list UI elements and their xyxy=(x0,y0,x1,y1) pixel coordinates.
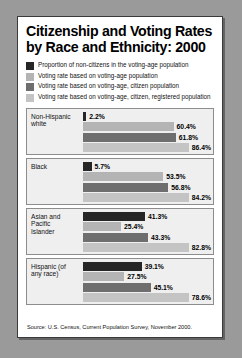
chart-group: Non-Hispanicwhite2.2%60.4%61.8%86.4% xyxy=(26,108,214,155)
bar-row: 5.7% xyxy=(83,162,211,171)
bar-row: 2.2% xyxy=(83,112,211,121)
bar-row: 82.8% xyxy=(83,243,211,252)
bar-row: 41.3% xyxy=(83,212,211,221)
source-note: Source: U.S. Census, Current Population … xyxy=(27,324,192,330)
legend-swatch xyxy=(26,94,34,102)
bar-row: 56.8% xyxy=(83,183,211,192)
group-label-line: Pacific xyxy=(31,220,81,228)
legend-item: Proportion of non-citizens in the voting… xyxy=(26,61,214,70)
bar-value-label: 27.5% xyxy=(127,273,146,280)
bar-row: 86.4% xyxy=(83,143,211,152)
bar xyxy=(83,243,189,252)
bar xyxy=(83,122,174,131)
bar-value-label: 86.4% xyxy=(192,144,211,151)
bar xyxy=(83,193,189,202)
bar-row: 84.2% xyxy=(83,193,211,202)
bar xyxy=(83,162,92,171)
bar-value-label: 78.6% xyxy=(192,294,211,301)
bar-value-label: 25.4% xyxy=(124,223,143,230)
legend-label: Voting rate based on voting-age, citizen… xyxy=(38,93,211,101)
chart-plot-area: Non-Hispanicwhite2.2%60.4%61.8%86.4%Blac… xyxy=(26,108,214,305)
bar-value-label: 56.8% xyxy=(171,184,190,191)
page-title: Citizenship and Voting Rates by Race and… xyxy=(26,24,214,55)
bar-value-label: 61.8% xyxy=(179,134,198,141)
legend-item: Voting rate based on voting-age, citizen… xyxy=(26,82,214,91)
group-label-line: Black xyxy=(31,163,81,171)
bar xyxy=(83,233,148,242)
chart-group: Asian andPacificIslander41.3%25.4%43.3%8… xyxy=(26,208,214,255)
bar-value-label: 60.4% xyxy=(177,123,196,130)
bar xyxy=(83,112,86,121)
bar xyxy=(83,283,151,292)
legend-swatch xyxy=(26,62,34,70)
group-label-line: white xyxy=(31,120,81,128)
title-line-2: by Race and Ethnicity: 2000 xyxy=(26,40,214,56)
group-bars: 39.1%27.5%45.1%78.6% xyxy=(83,262,211,301)
legend-swatch xyxy=(26,73,34,81)
legend-item: Voting rate based on voting-age populati… xyxy=(26,72,214,81)
bar-row: 27.5% xyxy=(83,272,211,281)
group-label-line: any race) xyxy=(31,270,81,278)
chart-group: Black5.7%53.5%56.8%84.2% xyxy=(26,158,214,205)
bar-row: 60.4% xyxy=(83,122,211,131)
bar-value-label: 45.1% xyxy=(154,284,173,291)
bar-value-label: 82.8% xyxy=(192,244,211,251)
bar-row: 43.3% xyxy=(83,233,211,242)
bar-value-label: 5.7% xyxy=(95,163,111,170)
group-bars: 5.7%53.5%56.8%84.2% xyxy=(83,162,211,201)
bar xyxy=(83,143,189,152)
bar xyxy=(83,212,145,221)
group-label-line: Islander xyxy=(31,228,81,236)
group-label-line: Non-Hispanic xyxy=(31,113,81,121)
group-label: Non-Hispanicwhite xyxy=(31,113,81,128)
bar xyxy=(83,262,142,271)
legend-label: Voting rate based on voting-age, citizen… xyxy=(38,82,179,90)
bar-row: 45.1% xyxy=(83,283,211,292)
bar xyxy=(83,183,168,192)
bar-row: 25.4% xyxy=(83,222,211,231)
bar-value-label: 2.2% xyxy=(89,113,105,120)
legend-label: Voting rate based on voting-age populati… xyxy=(38,72,158,80)
bar-value-label: 41.3% xyxy=(148,213,167,220)
group-label-line: Asian and xyxy=(31,213,81,221)
bar xyxy=(83,222,121,231)
group-bars: 2.2%60.4%61.8%86.4% xyxy=(83,112,211,151)
group-label-line: Hispanic (of xyxy=(31,263,81,271)
bar-value-label: 43.3% xyxy=(151,234,170,241)
group-bars: 41.3%25.4%43.3%82.8% xyxy=(83,212,211,251)
bar-row: 61.8% xyxy=(83,133,211,142)
bar-value-label: 53.5% xyxy=(166,173,185,180)
legend-item: Voting rate based on voting-age, citizen… xyxy=(26,93,214,102)
bar-row: 39.1% xyxy=(83,262,211,271)
bar-value-label: 84.2% xyxy=(192,194,211,201)
bar-value-label: 39.1% xyxy=(145,263,164,270)
bar-row: 53.5% xyxy=(83,172,211,181)
title-line-1: Citizenship and Voting Rates xyxy=(26,24,214,40)
bar xyxy=(83,293,189,302)
legend-label: Proportion of non-citizens in the voting… xyxy=(38,61,189,69)
bar xyxy=(83,172,163,181)
group-label: Asian andPacificIslander xyxy=(31,213,81,236)
bar-row: 78.6% xyxy=(83,293,211,302)
bar xyxy=(83,133,176,142)
bar xyxy=(83,272,124,281)
group-label: Black xyxy=(31,163,81,171)
chart-group: Hispanic (ofany race)39.1%27.5%45.1%78.6… xyxy=(26,258,214,305)
chart-legend: Proportion of non-citizens in the voting… xyxy=(26,61,214,102)
legend-swatch xyxy=(26,83,34,91)
group-label: Hispanic (ofany race) xyxy=(31,263,81,278)
chart-card: Citizenship and Voting Rates by Race and… xyxy=(17,16,223,338)
